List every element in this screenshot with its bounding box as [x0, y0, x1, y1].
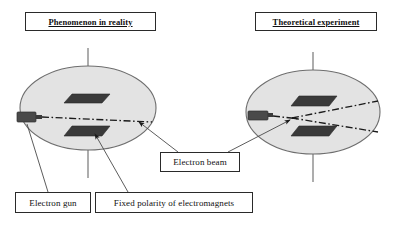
electromagnet-plate-icon: [64, 94, 110, 103]
electromagnet-plate-icon: [64, 126, 110, 136]
diagram-canvas: Phenomenon in reality Theoretical experi…: [0, 0, 399, 227]
electron-beam-callout-box: Electron beam: [160, 152, 240, 172]
right-title-box: Theoretical experiment: [255, 12, 377, 31]
electron-gun-nozzle-icon: [36, 115, 42, 119]
left-title-box: Phenomenon in reality: [25, 12, 156, 31]
electromagnet-plate-icon: [291, 96, 337, 106]
electron-gun-icon: [248, 111, 268, 120]
electron-gun-callout-box: Electron gun: [15, 192, 91, 213]
ellipse-platform-icon: [20, 66, 156, 150]
right-title-text: Theoretical experiment: [273, 17, 360, 27]
leader-line-icon: [139, 122, 178, 152]
electromagnet-plate-icon: [291, 126, 337, 136]
fixed-polarity-callout-box: Fixed polarity of electromagnets: [95, 192, 253, 213]
electron-gun-nozzle-icon: [268, 113, 273, 117]
electron-gun-label: Electron gun: [29, 198, 76, 208]
electron-gun-icon: [17, 112, 36, 122]
fixed-polarity-label: Fixed polarity of electromagnets: [114, 198, 234, 208]
electron-beam-label: Electron beam: [173, 157, 227, 167]
left-title-text: Phenomenon in reality: [48, 17, 132, 27]
